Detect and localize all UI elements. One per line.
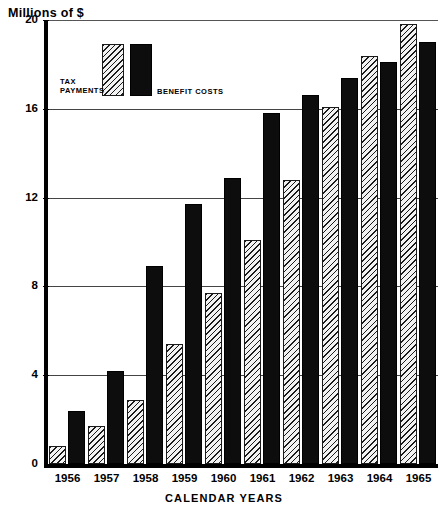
- bar-1956-tax-payments: [49, 446, 66, 464]
- bar-1963-tax-payments: [322, 107, 339, 464]
- x-axis-tick-labels: 1956195719581959196019611962196319641965: [48, 472, 438, 492]
- y-tick-label-0: 0: [4, 457, 38, 469]
- y-axis-tick-labels: 048121620: [0, 0, 44, 515]
- bar-1961-benefit-costs: [263, 113, 280, 464]
- x-tick-label-1964: 1964: [367, 472, 393, 484]
- legend-label-tax-line1: TAX: [60, 77, 100, 86]
- bar-1959-benefit-costs: [185, 204, 202, 464]
- bar-1960-tax-payments: [205, 293, 222, 464]
- bar-1964-benefit-costs: [380, 62, 397, 464]
- y-tick-label-12: 12: [4, 191, 38, 203]
- legend-label-benefit-costs: BENEFIT COSTS: [157, 87, 224, 96]
- bar-1957-tax-payments: [88, 426, 105, 464]
- x-tick-label-1962: 1962: [289, 472, 315, 484]
- x-tick-label-1963: 1963: [328, 472, 354, 484]
- x-tick-label-1956: 1956: [55, 472, 81, 484]
- x-tick-label-1961: 1961: [250, 472, 276, 484]
- bar-1957-benefit-costs: [107, 371, 124, 464]
- bar-1963-benefit-costs: [341, 78, 358, 464]
- x-tick-label-1957: 1957: [94, 472, 120, 484]
- legend-label-tax-payments: TAX PAYMENTS: [60, 77, 100, 95]
- x-axis-line: [44, 464, 438, 468]
- legend-swatch-benefit-costs: [130, 44, 152, 96]
- legend: TAX PAYMENTS BENEFIT COSTS: [60, 44, 280, 100]
- bar-1962-tax-payments: [283, 180, 300, 464]
- y-tick-label-16: 16: [4, 102, 38, 114]
- bar-1956-benefit-costs: [68, 411, 85, 464]
- x-axis-title: CALENDAR YEARS: [0, 492, 448, 504]
- bar-1962-benefit-costs: [302, 95, 319, 464]
- bar-1965-benefit-costs: [419, 42, 436, 464]
- bar-1958-tax-payments: [127, 400, 144, 464]
- x-tick-label-1958: 1958: [133, 472, 159, 484]
- y-tick-label-20: 20: [4, 13, 38, 25]
- bar-1961-tax-payments: [244, 240, 261, 464]
- x-tick-label-1959: 1959: [172, 472, 198, 484]
- bar-1964-tax-payments: [361, 56, 378, 464]
- bar-chart: Millions of $ 048121620 TAX PAYMENTS BEN…: [0, 0, 448, 515]
- x-tick-label-1965: 1965: [406, 472, 432, 484]
- bar-1958-benefit-costs: [146, 266, 163, 464]
- bar-1960-benefit-costs: [224, 178, 241, 464]
- bar-1959-tax-payments: [166, 344, 183, 464]
- x-tick-label-1960: 1960: [211, 472, 237, 484]
- y-tick-label-4: 4: [4, 368, 38, 380]
- y-tick-label-8: 8: [4, 279, 38, 291]
- legend-label-tax-line2: PAYMENTS: [60, 86, 100, 95]
- bar-1965-tax-payments: [400, 24, 417, 464]
- legend-swatch-tax-payments: [102, 44, 124, 96]
